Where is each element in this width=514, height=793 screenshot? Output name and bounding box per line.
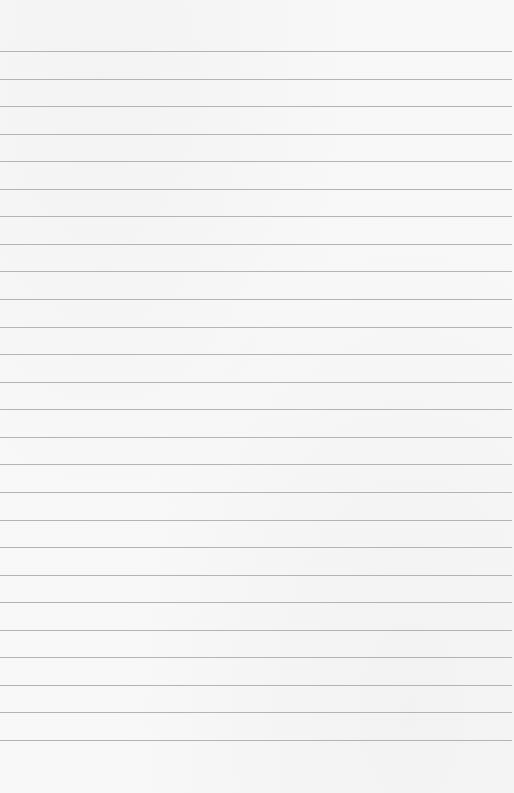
ruled-line — [0, 134, 512, 135]
ruled-line — [0, 299, 512, 300]
ruled-line — [0, 547, 512, 548]
ruled-line — [0, 79, 512, 80]
ruled-line — [0, 244, 512, 245]
ruled-line — [0, 492, 512, 493]
ruled-line — [0, 327, 512, 328]
ruled-line — [0, 161, 512, 162]
ruled-line — [0, 740, 512, 741]
ruled-line — [0, 51, 512, 52]
ruled-line — [0, 657, 512, 658]
ruled-line — [0, 189, 512, 190]
ruled-line — [0, 382, 512, 383]
ruled-line — [0, 575, 512, 576]
ruled-line — [0, 216, 512, 217]
ruled-line — [0, 271, 512, 272]
ruled-line — [0, 685, 512, 686]
ruled-line — [0, 354, 512, 355]
ruled-line — [0, 409, 512, 410]
ruled-line — [0, 602, 512, 603]
ruled-line — [0, 464, 512, 465]
lined-paper-sheet — [0, 0, 514, 793]
ruled-line — [0, 106, 512, 107]
ruled-line — [0, 520, 512, 521]
ruled-line — [0, 437, 512, 438]
ruled-line — [0, 712, 512, 713]
ruled-line — [0, 630, 512, 631]
